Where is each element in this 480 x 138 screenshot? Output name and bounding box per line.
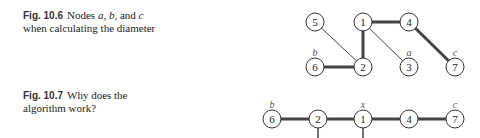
svg-text:6: 6 [269,113,275,125]
node-2: 2 [309,110,327,128]
node-4: 4 [400,13,418,31]
svg-text:4: 4 [406,16,412,28]
label-b: b [313,47,318,58]
edge-4-7 [409,22,455,67]
label-x: x [360,99,366,110]
node-2: 2 [354,58,372,76]
svg-text:5: 5 [312,16,318,28]
node-7: 7 [446,58,464,76]
svg-text:4: 4 [406,113,412,125]
svg-text:1: 1 [360,113,366,125]
label-c: c [453,99,458,110]
edge-1-3 [363,22,409,67]
label-a: a [407,47,412,58]
label-c: c [453,47,458,58]
svg-text:7: 7 [452,61,458,73]
figure-10-6-edges [315,22,455,67]
svg-text:6: 6 [312,61,318,73]
svg-text:2: 2 [315,113,321,125]
node-6: 6 [306,58,324,76]
node-4: 4 [400,110,418,128]
node-6: 6 [263,110,281,128]
graph-figures: 5 1 4 6 2 3 7 b a c 6 2 1 4 7 b x c [0,0,480,138]
node-1: 1 [354,110,372,128]
svg-text:1: 1 [360,16,366,28]
node-5: 5 [306,13,324,31]
svg-text:2: 2 [360,61,366,73]
node-1: 1 [354,13,372,31]
edge-5-2 [315,22,363,67]
label-b: b [270,99,275,110]
node-3: 3 [400,58,418,76]
svg-text:7: 7 [452,113,458,125]
svg-text:3: 3 [406,61,412,73]
node-7: 7 [446,110,464,128]
